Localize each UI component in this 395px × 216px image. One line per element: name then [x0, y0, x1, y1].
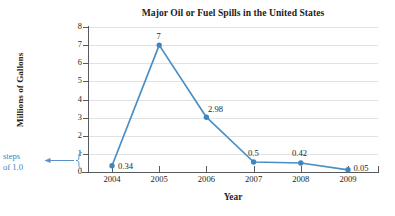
y-axis-tick — [83, 136, 89, 137]
y-axis-tick-label: 5 — [56, 76, 82, 85]
x-axis-tick — [112, 166, 113, 172]
y-axis-tick-label: 3 — [56, 113, 82, 122]
y-axis-tick-label: 7 — [56, 40, 82, 49]
y-axis-tick-label: 4 — [56, 95, 82, 104]
annotation-arrow-head — [45, 158, 51, 163]
x-axis-tick — [301, 166, 302, 172]
x-axis-tick-label: 2005 — [139, 174, 179, 184]
y-axis-tick — [83, 100, 89, 101]
y-axis-tick-label: 1 — [56, 149, 82, 158]
data-label-2008: 0.42 — [292, 148, 307, 158]
y-axis-tick — [83, 45, 89, 46]
annotation-line-1: steps — [3, 151, 45, 162]
y-axis-tick — [83, 27, 89, 28]
gridline — [88, 154, 378, 155]
x-axis-line — [82, 172, 379, 173]
y-axis-tick-label: 0 — [56, 167, 82, 176]
y-axis-tick — [83, 63, 89, 64]
gridline — [88, 136, 378, 137]
x-axis-tick — [159, 166, 160, 172]
gridline — [88, 118, 378, 119]
gridline — [88, 45, 378, 46]
x-axis-title: Year — [88, 192, 378, 202]
chart-title: Major Oil or Fuel Spills in the United S… — [88, 7, 378, 18]
y-axis-tick-label: 8 — [56, 22, 82, 31]
y-axis-tick — [83, 81, 89, 82]
plot-area — [88, 27, 378, 172]
data-label-2007: 0.5 — [248, 148, 259, 158]
gridline — [88, 63, 378, 64]
x-axis-tick-label: 2007 — [234, 174, 274, 184]
data-label-2004: 0.34 — [118, 161, 133, 171]
x-axis-tick-label: 2008 — [281, 174, 321, 184]
y-axis-tick — [83, 118, 89, 119]
data-label-2005: 7 — [157, 31, 161, 41]
gridline — [88, 27, 378, 28]
x-axis-end-tick — [378, 166, 379, 172]
gridline — [88, 100, 378, 101]
gridline — [88, 81, 378, 82]
data-label-2009: 0.05 — [354, 163, 369, 173]
annotation-line-2: of 1.0 — [3, 162, 45, 173]
x-axis-tick — [348, 166, 349, 172]
y-axis-tick — [83, 154, 89, 155]
x-axis-tick-label: 2004 — [92, 174, 132, 184]
steps-annotation-text: steps of 1.0 — [3, 151, 45, 172]
x-axis-tick-label: 2009 — [328, 174, 368, 184]
y-axis-tick-label: 2 — [56, 131, 82, 140]
x-axis-tick-label: 2006 — [186, 174, 226, 184]
y-axis-tick — [83, 172, 89, 173]
chart-figure: Major Oil or Fuel Spills in the United S… — [0, 0, 395, 216]
x-axis-tick — [206, 166, 207, 172]
x-axis-tick — [254, 166, 255, 172]
y-axis-title: Millions of Gallons — [15, 35, 25, 145]
data-label-2006: 2.98 — [208, 104, 223, 114]
y-axis-tick-label: 6 — [56, 58, 82, 67]
